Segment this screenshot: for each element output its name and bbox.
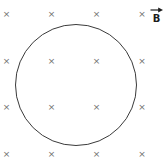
field-x-mark: × — [48, 10, 56, 19]
field-x-mark: × — [3, 103, 11, 112]
field-x-mark: × — [3, 57, 11, 66]
field-x-mark: × — [3, 10, 11, 19]
field-x-mark: × — [138, 10, 146, 19]
field-label-text: B — [153, 14, 161, 24]
b-vector-label: B — [150, 7, 163, 24]
field-x-mark: × — [3, 150, 11, 159]
magnetic-field-diagram: ×××××××××××××××× B — [0, 0, 165, 164]
field-x-mark: × — [138, 57, 146, 66]
field-x-mark: × — [138, 150, 146, 159]
field-x-mark: × — [48, 150, 56, 159]
field-x-mark: × — [93, 10, 101, 19]
field-x-mark: × — [93, 150, 101, 159]
field-boundary-circle — [15, 24, 137, 146]
field-x-mark: × — [138, 103, 146, 112]
